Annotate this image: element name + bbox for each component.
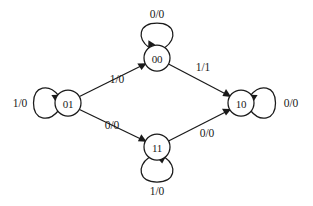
- state-node-11-label: 11: [152, 142, 162, 154]
- state-node-10-label: 10: [236, 98, 247, 110]
- state-node-01-label: 01: [63, 98, 74, 110]
- self-loop-label-01: 1/0: [13, 97, 28, 109]
- transition-label-11-to-10: 0/0: [200, 127, 215, 139]
- self-loop-label-10: 0/0: [284, 97, 299, 109]
- state-machine-diagram: 00 01 10 11 1/0 1/1 0/0 0/0 0/0 1/0 0/0 …: [0, 0, 313, 206]
- state-node-10[interactable]: 10: [228, 90, 254, 116]
- state-node-01[interactable]: 01: [55, 90, 81, 116]
- self-loop-00-path: [141, 23, 173, 48]
- self-loop-label-00: 0/0: [150, 8, 165, 20]
- state-node-00-label: 00: [152, 53, 163, 65]
- state-node-00[interactable]: 00: [144, 45, 170, 71]
- transition-label-00-to-10: 1/1: [196, 61, 211, 73]
- fsm-canvas: 00 01 10 11 1/0 1/1 0/0 0/0 0/0 1/0 0/0 …: [0, 0, 313, 206]
- transition-label-01-to-00: 1/0: [110, 73, 125, 85]
- self-loop-11-path: [141, 158, 173, 183]
- state-node-11[interactable]: 11: [144, 134, 170, 160]
- self-loop-label-11: 1/0: [150, 185, 165, 197]
- transition-label-01-to-11: 0/0: [105, 119, 120, 131]
